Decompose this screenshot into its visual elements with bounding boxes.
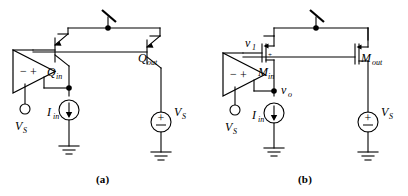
mout-label: M <box>360 51 372 65</box>
node-vo-label: v <box>281 83 287 97</box>
panel-b-caption: (b) <box>298 173 312 185</box>
voltage-source-vs-a: + <box>151 111 171 160</box>
vs-terminal-b <box>230 105 240 115</box>
circuit-schematic-canvas: Q in Q out <box>0 0 408 196</box>
vs-terminal-a-label-subscript: S <box>23 126 27 135</box>
qout-label: Q <box>138 51 147 65</box>
opamp-a-minus-sign: − <box>20 64 27 78</box>
node-v1-label: v <box>245 36 251 50</box>
node-dot-a-input <box>66 85 72 91</box>
panel-b: + M in v 1 M out <box>223 10 393 160</box>
vs-source-b-plus: + <box>365 111 372 125</box>
qout-label-subscript: out <box>147 58 158 67</box>
vs-source-b-label-subscript: S <box>389 112 393 121</box>
vs-source-a-label-subscript: S <box>182 112 186 121</box>
current-source-iin-b <box>264 103 284 156</box>
panel-a-caption: (a) <box>96 173 109 185</box>
min-body-plus: + <box>268 51 272 59</box>
min-label-subscript: in <box>268 72 274 81</box>
iin-b-label-subscript: in <box>258 115 264 124</box>
voltage-source-vs-b: + <box>358 111 378 160</box>
mout-label-subscript: out <box>372 58 383 67</box>
vs-terminal-a <box>20 104 30 114</box>
iin-a-label: I <box>46 105 52 119</box>
opamp-b-plus-sign: + <box>240 68 247 82</box>
opamp-b-minus-sign: − <box>230 67 237 81</box>
node-dot-b-output <box>271 88 277 94</box>
vs-source-a-plus: + <box>158 111 165 125</box>
node-vo-label-subscript: o <box>288 90 292 99</box>
iin-b-label: I <box>251 108 257 122</box>
vs-terminal-b-label-subscript: S <box>233 127 237 136</box>
iin-a-label-subscript: in <box>53 112 59 121</box>
node-v1-label-subscript: 1 <box>252 43 256 52</box>
circuit-figure: Q in Q out <box>0 0 408 196</box>
panel-a: Q in Q out <box>13 10 186 160</box>
qin-label-subscript: in <box>56 72 62 81</box>
opamp-a-plus-sign: + <box>30 65 37 79</box>
current-source-iin-a <box>59 100 79 154</box>
